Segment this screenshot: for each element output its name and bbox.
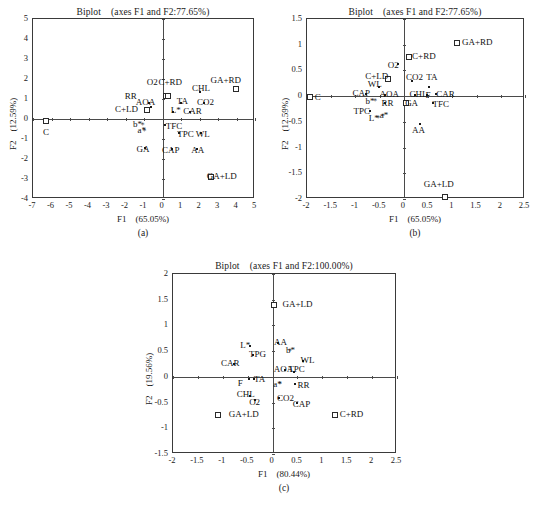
data-point <box>294 383 296 385</box>
data-point-label: GA+LD <box>229 410 259 419</box>
data-point-label: C+LD <box>115 105 138 114</box>
data-point-label: GA+RD <box>462 38 493 47</box>
y-tick-label: 5 <box>6 14 28 23</box>
data-point-label: O2 <box>147 78 158 87</box>
x-tick-label: 2.5 <box>519 201 530 210</box>
data-point-label: RR <box>297 381 309 390</box>
data-point <box>454 40 460 46</box>
x-tick-label: -1 <box>218 456 225 465</box>
data-point-label: RR <box>381 99 393 108</box>
data-point-label: b* <box>286 346 295 355</box>
y-tick-mark <box>272 300 275 301</box>
data-point-label: TPG <box>249 350 266 359</box>
y-tick-mark <box>162 159 165 160</box>
y-tick-label: -4 <box>6 194 28 203</box>
y-axis-title: F2 (12.59%) <box>6 98 19 150</box>
x-tick-mark <box>52 118 53 121</box>
data-point-label: CHL <box>192 84 210 93</box>
x-tick-mark <box>501 95 502 98</box>
x-tick-mark <box>372 376 373 379</box>
x-tick-label: 0 <box>159 201 163 210</box>
x-axis-title: F1 (65.05%) <box>306 212 524 225</box>
y-tick-label: -3 <box>6 174 28 183</box>
data-point-label: TA <box>426 73 437 82</box>
data-point-label: a* <box>138 126 147 135</box>
data-point <box>248 378 250 380</box>
y-tick-label: 1.5 <box>280 14 302 23</box>
panel-caption: (b) <box>306 228 524 238</box>
y-tick-mark <box>272 403 275 404</box>
y-tick-mark <box>403 173 406 174</box>
x-tick-label: 1 <box>319 456 323 465</box>
data-point-label: C+RD <box>158 78 182 87</box>
x-tick-mark <box>255 118 256 121</box>
data-point-label: WL <box>196 130 210 139</box>
data-point <box>332 412 338 418</box>
y-tick-label: 2 <box>146 269 168 278</box>
x-tick-mark <box>33 118 34 121</box>
data-point-label: O2 <box>249 398 260 407</box>
x-tick-label: -1 <box>351 201 358 210</box>
x-tick-label: -1.5 <box>323 201 336 210</box>
x-tick-label: 1 <box>178 201 182 210</box>
x-tick-mark <box>297 376 298 379</box>
data-point <box>165 93 171 99</box>
chart-title: Biplot (axes F1 and F2:77.65%) <box>32 4 254 18</box>
data-point <box>428 86 430 88</box>
x-tick-label: -2 <box>302 201 309 210</box>
data-point-label: TA <box>254 375 265 384</box>
x-tick-mark <box>237 118 238 121</box>
y-tick-mark <box>162 139 165 140</box>
data-point-label: GA+LD <box>207 172 237 181</box>
data-point <box>233 86 239 92</box>
y-tick-mark <box>403 19 406 20</box>
y-tick-mark <box>272 351 275 352</box>
data-point-label: O2 <box>388 61 399 70</box>
chart-panel-b: Biplot (axes F1 and F2:77.65%)CGA+RDC+RD… <box>272 0 544 250</box>
y-tick-label: -2 <box>280 194 302 203</box>
x-tick-mark <box>322 376 323 379</box>
x-tick-label: 2.5 <box>391 456 402 465</box>
data-point-label: CO2 <box>406 73 423 82</box>
x-tick-mark <box>200 118 201 121</box>
x-tick-mark <box>89 118 90 121</box>
y-tick-label: 3 <box>6 54 28 63</box>
x-tick-label: 0.5 <box>291 456 302 465</box>
data-point-label: C+RD <box>340 410 364 419</box>
data-point-label: TFC <box>432 100 449 109</box>
data-point <box>215 412 221 418</box>
x-tick-label: 1 <box>449 201 453 210</box>
y-tick-label: 2 <box>6 74 28 83</box>
x-tick-label: 3 <box>215 201 219 210</box>
data-point-label: AA <box>412 126 425 135</box>
y-tick-mark <box>162 99 165 100</box>
chart-panel-a: Biplot (axes F1 and F2:77.65%)CC+LDRRAOA… <box>0 0 274 250</box>
x-tick-label: 2 <box>498 201 502 210</box>
y-tick-mark <box>162 119 165 120</box>
x-tick-label: 0.5 <box>422 201 433 210</box>
x-tick-label: -2 <box>168 456 175 465</box>
plot-area: GA+LDAAL*∗b*TPGWLCARAOATPCTAF∗a*RRCHLCO2… <box>172 273 396 453</box>
data-point <box>442 194 448 200</box>
data-point-label: CO2 <box>277 394 294 403</box>
x-zero-axis <box>173 377 395 378</box>
y-tick-label: -1.5 <box>146 449 168 458</box>
y-tick-mark <box>403 122 406 123</box>
data-point-label: F <box>238 379 243 388</box>
x-tick-mark <box>198 376 199 379</box>
data-point-label: TPC <box>177 130 194 139</box>
data-point-label: GA <box>405 99 418 108</box>
y-tick-mark <box>162 19 165 20</box>
x-tick-label: -4 <box>84 201 91 210</box>
x-tick-label: 1.5 <box>341 456 352 465</box>
data-point-label: TPC <box>353 107 370 116</box>
x-tick-mark <box>107 118 108 121</box>
x-tick-mark <box>223 376 224 379</box>
plot-area: CGA+RDC+RDO2C+LDCO2TAWLCAPAOACHLFCAR∗b*R… <box>306 18 524 198</box>
y-axis-title: F2 (19.56%) <box>142 353 155 405</box>
data-point-label: AOA <box>136 98 156 107</box>
y-tick-label: 4 <box>6 34 28 43</box>
x-axis-title: F1 (80.44%) <box>172 467 396 480</box>
y-tick-mark <box>162 179 165 180</box>
data-point <box>406 54 412 60</box>
